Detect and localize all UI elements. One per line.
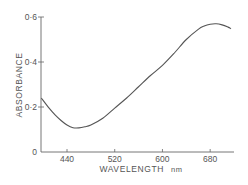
x-axis-title-text: WAVELENGTH (99, 164, 164, 174)
x-tick-label: 520 (108, 154, 122, 164)
y-tick-label: 0·6 (25, 12, 38, 22)
y-tick-label: 0·4 (25, 57, 38, 67)
x-axis-unit: nm (171, 165, 183, 174)
x-axis: 440520600680 (41, 149, 234, 164)
x-axis-title: WAVELENGTH nm (99, 164, 182, 174)
x-tick-label: 680 (203, 154, 217, 164)
y-axis-title: ABSORBANCE (14, 52, 24, 117)
y-tick-label: 0 (32, 147, 37, 157)
x-tick-label: 600 (155, 154, 169, 164)
x-tick-label: 440 (60, 154, 74, 164)
y-tick-label: 0·2 (25, 102, 38, 112)
y-axis: 00·20·40·6 (25, 12, 44, 157)
absorbance-chart: 00·20·40·6 440520600680 ABSORBANCE WAVEL… (0, 0, 248, 185)
absorbance-curve (41, 24, 231, 128)
